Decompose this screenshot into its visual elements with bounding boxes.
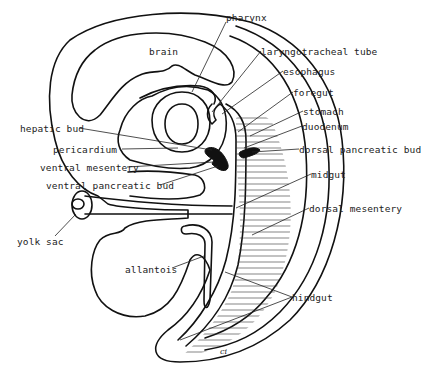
label-laryngotracheal-tube: laryngotracheal tube — [261, 46, 377, 57]
yolk-stalk-upper — [85, 196, 232, 206]
leader-pharynx — [192, 22, 226, 92]
label-pharynx: pharynx — [226, 12, 267, 23]
label-yolk-sac: yolk sac — [17, 236, 64, 247]
artist-signature: ci — [220, 346, 227, 357]
label-hepatic-bud: hepatic bud — [20, 123, 84, 134]
label-ventral-mesentery: ventral mesentery — [40, 162, 139, 173]
label-foregut: foregut — [293, 87, 334, 98]
gut-tube-anterior — [178, 104, 236, 340]
label-dorsal-pancreatic-bud: dorsal pancreatic bud — [299, 144, 421, 155]
label-stomach: stomach — [303, 106, 344, 117]
pericardium-outline — [152, 92, 210, 152]
dorsal-pancreatic-bud-shape — [239, 148, 260, 158]
leader-midgut — [236, 174, 311, 208]
label-dorsal-mesentery: dorsal mesentery — [309, 203, 402, 214]
yolk-sac-inner — [72, 199, 84, 209]
leader-laryngotracheal-tube — [212, 51, 261, 112]
label-pericardium: pericardium — [53, 144, 117, 155]
label-duodenum: duodenum — [302, 121, 349, 132]
allantois-outline — [181, 225, 212, 308]
label-hindgut: hindgut — [292, 292, 333, 303]
label-brain: brain — [149, 46, 178, 57]
label-esophagus: esophagus — [283, 66, 335, 77]
label-ventral-pancreatic-bud: ventral pancreatic bud — [46, 180, 174, 191]
leader-stomach — [250, 111, 303, 136]
leader-esophagus — [222, 71, 283, 114]
leader-yolk-sac — [55, 214, 76, 236]
leader-foregut — [238, 92, 293, 132]
leader-duodenum — [244, 126, 302, 148]
heart-outline — [165, 104, 198, 144]
label-allantois: allantois — [125, 264, 177, 275]
label-midgut: midgut — [311, 169, 346, 180]
